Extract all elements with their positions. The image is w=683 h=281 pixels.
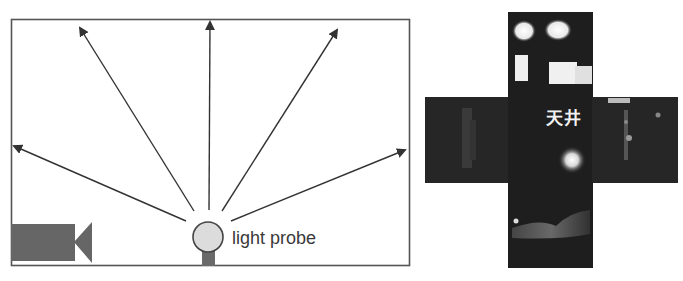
ray-arrow-upper-right: [222, 30, 337, 211]
light-probe: [193, 222, 223, 266]
cube-map-cross: [420, 0, 683, 281]
probe-sphere: [193, 222, 223, 252]
cube-face-top: [508, 12, 593, 98]
camera-icon: [11, 222, 92, 263]
ceiling-label: 天井: [546, 104, 582, 129]
light-probe-label: light probe: [232, 228, 316, 249]
cube-face-right: [592, 97, 678, 183]
cube-face-left: [425, 97, 510, 183]
cube-face-bottom: [508, 182, 593, 268]
ray-arrows: [14, 22, 405, 221]
ray-arrow-up: [209, 22, 210, 210]
ray-arrow-upper-left: [80, 28, 194, 211]
light-probe-diagram: [0, 0, 420, 281]
ray-arrow-far-right: [231, 150, 405, 221]
